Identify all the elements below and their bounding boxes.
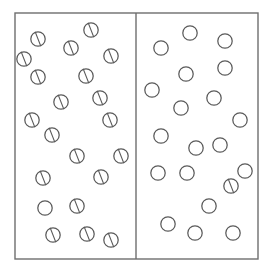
token-plain	[161, 217, 175, 231]
right-panel	[145, 26, 252, 240]
token-circle	[238, 164, 252, 178]
token-lined	[31, 32, 45, 46]
token-circle	[161, 217, 175, 231]
token-circle	[174, 101, 188, 115]
token-plain	[180, 166, 194, 180]
token-lined	[84, 23, 98, 37]
figure-canvas	[0, 0, 274, 276]
token-lined	[103, 113, 117, 127]
token-circle	[233, 113, 247, 127]
token-plain	[188, 226, 202, 240]
token-circle	[207, 91, 221, 105]
token-lined	[224, 179, 238, 193]
token-circle	[202, 199, 216, 213]
token-plain	[154, 129, 168, 143]
token-plain	[202, 199, 216, 213]
token-plain	[179, 67, 193, 81]
token-circle	[213, 138, 227, 152]
token-plain	[213, 138, 227, 152]
left-panel	[17, 23, 128, 247]
token-plain	[233, 113, 247, 127]
token-plain	[145, 83, 159, 97]
token-circle	[145, 83, 159, 97]
token-lined	[104, 49, 118, 63]
token-plain	[218, 34, 232, 48]
token-lined	[64, 41, 78, 55]
token-plain	[151, 166, 165, 180]
token-circle	[38, 201, 52, 215]
token-lined	[79, 69, 93, 83]
token-lined	[25, 113, 39, 127]
token-circle	[218, 61, 232, 75]
token-circle	[183, 26, 197, 40]
token-circle	[154, 41, 168, 55]
token-lined	[36, 171, 50, 185]
token-plain	[189, 141, 203, 155]
token-lined	[70, 199, 84, 213]
token-plain	[174, 101, 188, 115]
token-circle	[188, 226, 202, 240]
token-plain	[154, 41, 168, 55]
token-circle	[154, 129, 168, 143]
token-circle	[179, 67, 193, 81]
token-lined	[31, 70, 45, 84]
token-circle	[218, 34, 232, 48]
token-plain	[218, 61, 232, 75]
token-lined	[54, 95, 68, 109]
token-plain	[207, 91, 221, 105]
token-lined	[45, 128, 59, 142]
token-plain	[238, 164, 252, 178]
token-lined	[17, 52, 31, 66]
token-lined	[94, 170, 108, 184]
token-circle	[151, 166, 165, 180]
two-panel-token-figure	[0, 0, 274, 276]
token-circle	[180, 166, 194, 180]
token-plain	[183, 26, 197, 40]
token-lined	[114, 149, 128, 163]
token-circle	[189, 141, 203, 155]
token-plain	[38, 201, 52, 215]
token-lined	[70, 149, 84, 163]
token-lined	[93, 91, 107, 105]
token-lined	[104, 233, 118, 247]
token-lined	[46, 228, 60, 242]
token-lined	[80, 227, 94, 241]
token-plain	[226, 226, 240, 240]
token-circle	[226, 226, 240, 240]
